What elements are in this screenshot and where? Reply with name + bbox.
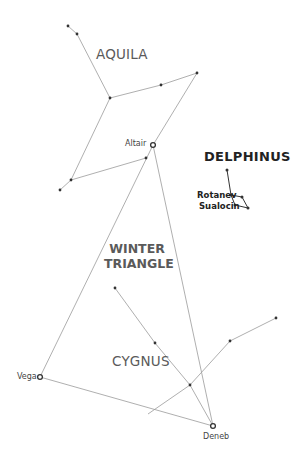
winter-triangle-line2: TRIANGLE xyxy=(104,256,170,271)
stars xyxy=(59,25,278,387)
winter-triangle-line1: WINTER xyxy=(104,241,170,256)
delphinus-label: DELPHINUS xyxy=(204,149,291,164)
altair-star-icon xyxy=(151,143,156,148)
aquila-label: AQUILA xyxy=(96,46,148,62)
altair-label: Altair xyxy=(125,139,146,148)
vega-label: Vega xyxy=(17,372,37,381)
star-chart xyxy=(0,0,303,457)
winter-triangle-label: WINTER TRIANGLE xyxy=(104,241,170,271)
cygnus-label: CYGNUS xyxy=(112,353,170,369)
deneb-label: Deneb xyxy=(203,432,229,441)
winter-triangle-lines xyxy=(40,145,213,426)
vega-star-icon xyxy=(38,375,43,380)
rotanev-label: Rotanev xyxy=(197,190,237,200)
deneb-star-icon xyxy=(211,424,216,429)
sualocin-label: Sualocin xyxy=(199,201,240,211)
